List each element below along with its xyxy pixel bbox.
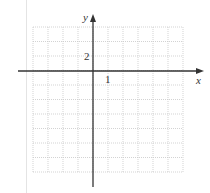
y-axis-arrow-icon [90,14,96,22]
grid-lines [33,27,183,172]
y-tick-label: 2 [84,51,90,62]
y-axis-label: y [83,12,88,23]
coordinate-plane [0,0,210,193]
x-axis-label: x [196,75,201,86]
x-tick-label: 1 [105,74,111,85]
